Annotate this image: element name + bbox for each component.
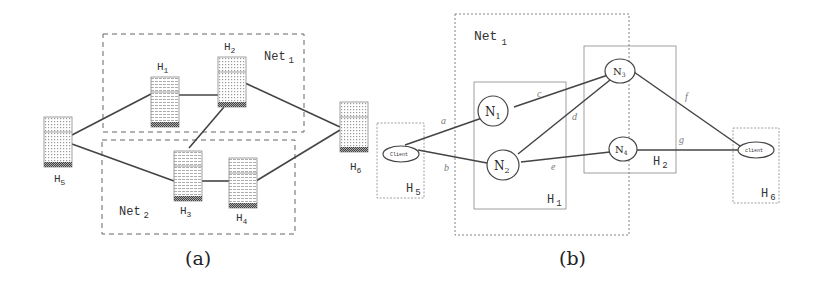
caption-a: (a) (185, 247, 211, 269)
host-h1-icon (151, 77, 179, 127)
host-h6-icon (340, 102, 368, 152)
net2-label: Net2 (119, 205, 149, 221)
h5-label-b: H5 (406, 182, 421, 198)
h2-label-b: H2 (653, 155, 668, 171)
net1-boundary (103, 34, 304, 132)
node-client-left: Client (383, 146, 419, 162)
edge-label-g: g (679, 134, 684, 145)
node-n3: N3 (605, 59, 635, 83)
svg-text:client: client (745, 148, 763, 154)
net1-boundary-b (455, 14, 629, 235)
node-n4: N4 (609, 137, 637, 161)
h1-label: H1 (157, 61, 169, 75)
edge-label-c: c (537, 88, 542, 99)
h5-label: H5 (54, 173, 66, 187)
host-h5-icon (44, 117, 72, 167)
figure-b: Client N1 N2 N3 N4 client a b c d e f g (377, 14, 779, 269)
edge-label-e: e (551, 161, 556, 172)
figure-a: Net1 Net2 H1 H2 H3 H4 H5 H6 (a) (44, 34, 368, 269)
host-h4-icon (229, 158, 257, 208)
h4-label: H4 (236, 212, 248, 226)
net1-label-b: Net1 (474, 29, 507, 48)
h2-label: H2 (224, 41, 236, 55)
edge-label-a: a (441, 115, 446, 126)
figure-canvas: Net1 Net2 H1 H2 H3 H4 H5 H6 (a) Client (0, 0, 816, 290)
h3-label: H3 (180, 205, 192, 219)
node-client-right: client (738, 142, 774, 158)
edge-label-f: f (685, 91, 689, 102)
h1-label-b: H1 (547, 193, 562, 209)
h6-label-b: H6 (761, 187, 776, 203)
edge-label-b: b (444, 162, 449, 173)
caption-b: (b) (559, 247, 586, 269)
node-n2: N2 (487, 150, 519, 180)
host-h2-icon (218, 57, 246, 107)
host-h6-box (733, 128, 779, 203)
host-h3-icon (174, 151, 202, 201)
h6-label: H6 (350, 161, 362, 175)
svg-text:Client: Client (390, 152, 408, 158)
edge-label-d: d (572, 111, 578, 122)
node-n1: N1 (478, 96, 508, 126)
net1-label: Net1 (264, 50, 294, 66)
